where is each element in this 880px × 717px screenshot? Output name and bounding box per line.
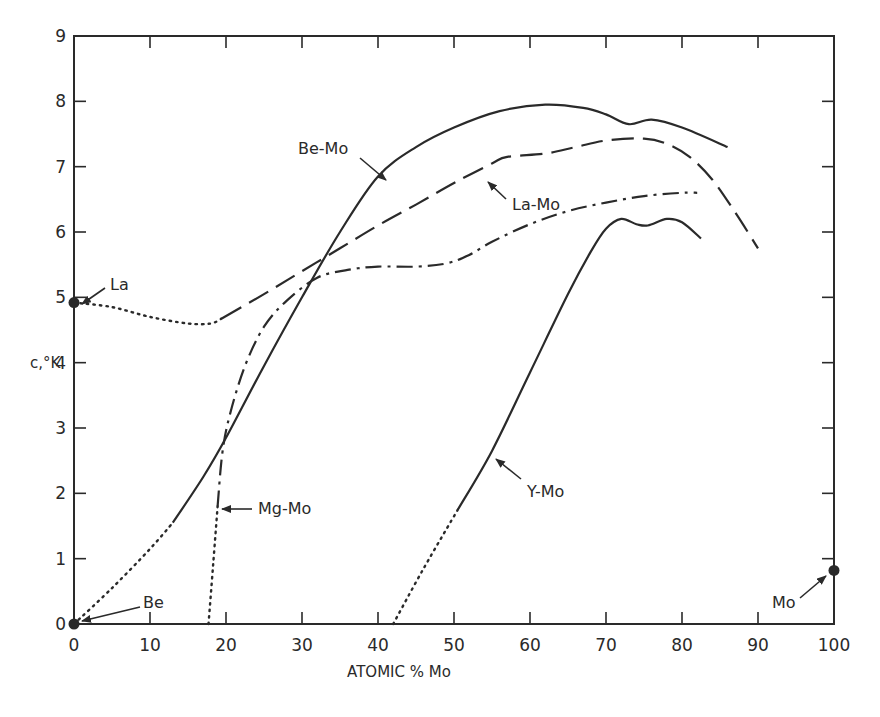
y-tick-label: 5 — [55, 287, 66, 307]
y-axis-title: c,°K — [30, 354, 62, 372]
data-series — [74, 105, 758, 624]
y-tick-label: 2 — [55, 483, 66, 503]
x-tick-label: 100 — [818, 635, 850, 655]
label-be: Be — [143, 593, 164, 612]
curve-la-mo — [222, 138, 758, 318]
curve-mg-mo — [218, 193, 698, 507]
curve-be-mo — [173, 105, 728, 523]
axis-ticks — [74, 36, 834, 624]
curve-mg-mo-extrapolated — [209, 506, 218, 624]
label-be-mo: Be-Mo — [298, 139, 348, 158]
y-tick-label: 7 — [55, 157, 66, 177]
tick-labels: 01020304050607080901000123456789 — [55, 26, 850, 655]
arrow-mo — [800, 576, 826, 598]
x-tick-label: 70 — [595, 635, 617, 655]
y-tick-label: 0 — [55, 614, 66, 634]
x-tick-label: 0 — [69, 635, 80, 655]
plot-frame — [74, 36, 834, 624]
label-mo: Mo — [772, 593, 796, 612]
x-tick-label: 10 — [139, 635, 161, 655]
curve-y-mo-extrapolated — [393, 510, 458, 624]
y-tick-label: 8 — [55, 91, 66, 111]
label-la-mo: La-Mo — [512, 195, 560, 214]
label-mg-mo: Mg-Mo — [258, 499, 311, 518]
arrow-be-mo — [360, 158, 386, 180]
curve-y-mo — [458, 219, 701, 510]
x-tick-label: 20 — [215, 635, 237, 655]
element-points — [69, 297, 840, 629]
y-tick-label: 1 — [55, 549, 66, 569]
chart-canvas: 01020304050607080901000123456789 ATOMIC … — [0, 0, 880, 717]
x-tick-label: 50 — [443, 635, 465, 655]
arrow-y-mo — [496, 459, 521, 479]
point-la — [69, 297, 80, 308]
x-tick-label: 40 — [367, 635, 389, 655]
y-tick-label: 9 — [55, 26, 66, 46]
arrow-la — [82, 288, 105, 304]
label-y-mo: Y-Mo — [526, 482, 564, 501]
y-tick-label: 3 — [55, 418, 66, 438]
x-tick-label: 60 — [519, 635, 541, 655]
x-tick-label: 90 — [747, 635, 769, 655]
point-be — [69, 619, 80, 630]
x-tick-label: 30 — [291, 635, 313, 655]
x-axis-title: ATOMIC % Mo — [347, 663, 451, 681]
point-mo — [829, 565, 840, 576]
arrow-be — [82, 607, 140, 621]
y-tick-label: 6 — [55, 222, 66, 242]
curve-la-mo-extrapolated — [74, 303, 222, 325]
arrow-la-mo — [488, 182, 506, 199]
label-la: La — [110, 275, 129, 294]
x-tick-label: 80 — [671, 635, 693, 655]
